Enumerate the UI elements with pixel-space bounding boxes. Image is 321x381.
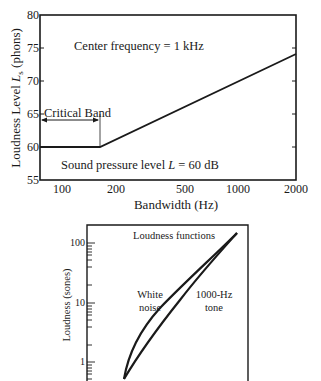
bottom-chart: 100 10 1 Loudness (sones) Loudness funct… [61, 225, 248, 381]
top-chart: 80 75 70 65 60 55 100 200 500 1000 2000 … [8, 8, 308, 212]
center-frequency-label: Center frequency = 1 kHz [74, 39, 204, 53]
loudness-level-line [40, 54, 296, 147]
y-tick-label: 100 [70, 237, 85, 248]
figure: 80 75 70 65 60 55 100 200 500 1000 2000 … [0, 0, 321, 381]
bottom-y-tick-labels: 100 10 1 [70, 237, 85, 367]
y-tick-label: 70 [27, 74, 39, 88]
y-tick-label: 80 [27, 8, 39, 22]
spl-label: Sound pressure level L = 60 dB [61, 158, 219, 172]
y-tick-label: 65 [27, 107, 39, 121]
critical-band-label: Critical Band [44, 106, 112, 120]
x-tick-label: 500 [176, 182, 194, 196]
top-y-tick-labels: 80 75 70 65 60 55 [27, 8, 39, 187]
top-y-axis-label: Loudness Level Ls (phons) [8, 28, 25, 168]
top-x-axis-label: Bandwidth (Hz) [134, 197, 218, 212]
white-noise-label-line2: noise [139, 302, 162, 313]
bottom-y-ticks [87, 243, 95, 379]
x-tick-label: 200 [107, 182, 125, 196]
x-tick-label: 1000 [226, 182, 250, 196]
white-noise-label-line1: White [137, 289, 163, 300]
x-tick-label: 100 [53, 182, 71, 196]
top-y-ticks [40, 48, 296, 147]
y-tick-label: 75 [27, 41, 39, 55]
bottom-y-axis-label: Loudness (sones) [61, 268, 73, 342]
y-tick-label: 1 [80, 356, 85, 367]
y-tick-label: 55 [27, 173, 39, 187]
y-tick-label: 60 [27, 140, 39, 154]
x-tick-label: 2000 [284, 182, 308, 196]
tone-label-line1: 1000-Hz [196, 289, 233, 300]
y-tick-label: 10 [75, 297, 85, 308]
top-x-tick-labels: 100 200 500 1000 2000 [53, 182, 308, 196]
bottom-chart-title: Loudness functions [133, 230, 215, 241]
tone-label-line2: tone [205, 302, 223, 313]
